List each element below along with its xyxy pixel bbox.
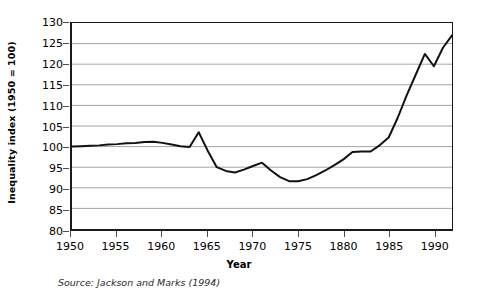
y-tick-label: 105 — [42, 120, 63, 133]
y-tick-label: 125 — [42, 36, 63, 49]
y-axis-title-text: Inequality index (1950 = 100) — [6, 41, 17, 203]
source-caption: Source: Jackson and Marks (1994) — [58, 277, 220, 288]
y-tick-mark — [63, 43, 69, 44]
x-tick-mark — [207, 231, 208, 237]
y-tick-mark — [63, 231, 69, 232]
y-tick-mark — [63, 189, 69, 190]
y-tick-mark — [63, 85, 69, 86]
y-tick-mark — [63, 106, 69, 107]
chart-figure: Inequality index (1950 = 100) 8085909510… — [0, 0, 478, 302]
y-tick-mark — [63, 64, 69, 65]
x-tick-mark — [344, 231, 345, 237]
y-tick-mark — [63, 168, 69, 169]
y-tick-label: 110 — [42, 99, 63, 112]
x-tick-mark — [298, 231, 299, 237]
y-tick-label: 100 — [42, 141, 63, 154]
y-tick-label: 85 — [49, 204, 63, 217]
x-tick-mark — [70, 231, 71, 237]
y-tick-mark — [63, 210, 69, 211]
x-tick-label: 1970 — [238, 240, 266, 253]
x-tick-label: 1950 — [56, 240, 84, 253]
data-series-line — [72, 35, 452, 181]
y-tick-label: 80 — [49, 225, 63, 238]
y-tick-label: 90 — [49, 183, 63, 196]
x-axis-title-text: Year — [227, 259, 252, 270]
y-tick-mark — [63, 22, 69, 23]
y-tick-label: 130 — [42, 16, 63, 29]
y-axis-tick-labels: 80859095100105110115120125130 — [22, 0, 68, 302]
data-line-layer — [72, 23, 452, 229]
y-tick-mark — [63, 127, 69, 128]
x-tick-label: 1955 — [102, 240, 130, 253]
x-tick-mark — [116, 231, 117, 237]
plot-area — [70, 22, 453, 231]
y-tick-label: 95 — [49, 162, 63, 175]
x-tick-label: 1880 — [330, 240, 358, 253]
x-tick-mark — [389, 231, 390, 237]
y-tick-mark — [63, 147, 69, 148]
x-axis-title: Year — [0, 259, 478, 270]
y-axis-title: Inequality index (1950 = 100) — [0, 0, 22, 245]
y-tick-label: 120 — [42, 57, 63, 70]
x-tick-label: 1990 — [421, 240, 449, 253]
x-tick-label: 1985 — [375, 240, 403, 253]
x-tick-mark — [252, 231, 253, 237]
x-tick-label: 1965 — [193, 240, 221, 253]
x-tick-label: 1960 — [147, 240, 175, 253]
y-tick-label: 115 — [42, 78, 63, 91]
x-tick-label: 1975 — [284, 240, 312, 253]
x-tick-mark — [435, 231, 436, 237]
x-tick-mark — [161, 231, 162, 237]
